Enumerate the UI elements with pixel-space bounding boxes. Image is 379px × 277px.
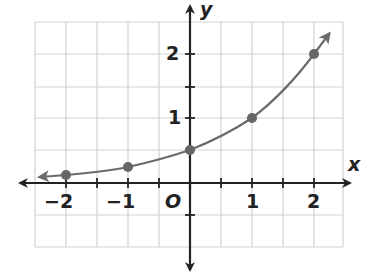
y-tick-label-2: 2 [166, 44, 179, 63]
point-2 [309, 49, 319, 59]
origin-label: O [165, 192, 181, 211]
x-tick-label-1: 1 [246, 192, 259, 211]
point-1 [247, 113, 257, 123]
point-0 [185, 145, 195, 155]
axes [20, 6, 350, 270]
curve [40, 34, 329, 180]
x-axis-label: x [348, 155, 360, 174]
x-tick-label-m2: −2 [44, 192, 73, 211]
x-tick-label-2: 2 [307, 192, 320, 211]
x-tick-label-m1: −1 [106, 192, 135, 211]
point-m2 [61, 170, 71, 180]
point-m1 [123, 162, 133, 172]
graph-canvas [0, 0, 379, 277]
y-axis-label: y [200, 0, 212, 19]
y-tick-label-1: 1 [168, 108, 181, 127]
